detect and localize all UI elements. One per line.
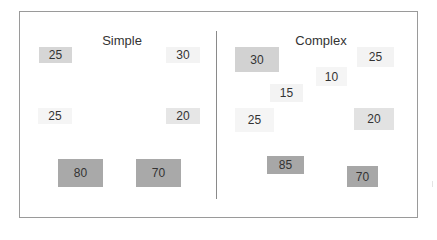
simple-box-top-right: 30	[166, 47, 200, 63]
complex-box-25-top: 25	[357, 47, 394, 67]
complex-box-15: 15	[270, 84, 303, 102]
complex-panel-title: Complex	[281, 34, 361, 48]
complex-box-70: 70	[347, 166, 378, 187]
simple-box-bottom-right: 70	[136, 159, 181, 187]
complex-box-85: 85	[267, 156, 304, 174]
simple-box-bottom-left: 80	[58, 159, 103, 187]
simple-panel-title: Simple	[82, 34, 162, 48]
complex-box-10: 10	[316, 67, 347, 86]
complex-box-30: 30	[235, 47, 279, 72]
simple-box-mid-right: 20	[166, 108, 200, 124]
complex-box-25-left: 25	[235, 108, 274, 132]
simple-box-mid-left: 25	[38, 108, 72, 124]
edge-artifact	[432, 181, 433, 187]
complex-box-20: 20	[354, 108, 394, 130]
panel-divider	[216, 31, 217, 199]
simple-box-top-left: 25	[39, 47, 72, 63]
